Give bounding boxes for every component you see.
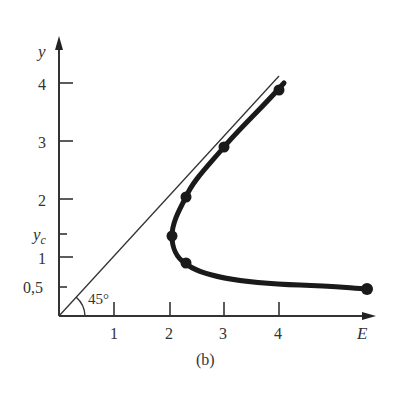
x-axis-arrow-icon [362, 312, 376, 320]
y-tick-yc: yc [31, 225, 47, 247]
y-axis-label: y [36, 42, 46, 61]
energy-curve [172, 83, 367, 289]
data-point [181, 258, 192, 269]
data-point [274, 85, 285, 96]
x-axis-label: E [356, 324, 368, 343]
y-axis-arrow-icon [55, 36, 63, 50]
data-point [167, 231, 178, 242]
x-tick-2: 2 [165, 325, 173, 342]
data-point [219, 142, 230, 153]
y-tick-3: 3 [38, 134, 46, 151]
figure-caption: (b) [196, 351, 215, 369]
data-point [181, 192, 192, 203]
angle-arc-icon [76, 297, 85, 316]
y-ticks [59, 83, 73, 287]
data-point [361, 283, 373, 295]
y-tick-0-5: 0,5 [23, 279, 43, 296]
specific-energy-chart: y 4 3 2 yc 1 0,5 1 2 3 4 E 45° (b) [0, 0, 400, 395]
data-points [167, 85, 374, 296]
y-tick-2: 2 [38, 192, 46, 209]
x-tick-1: 1 [110, 325, 118, 342]
y-tick-4: 4 [38, 76, 46, 93]
x-tick-3: 3 [219, 325, 227, 342]
x-ticks [114, 302, 279, 316]
y-tick-1: 1 [38, 250, 46, 267]
x-tick-4: 4 [274, 325, 282, 342]
angle-label: 45° [88, 291, 109, 307]
